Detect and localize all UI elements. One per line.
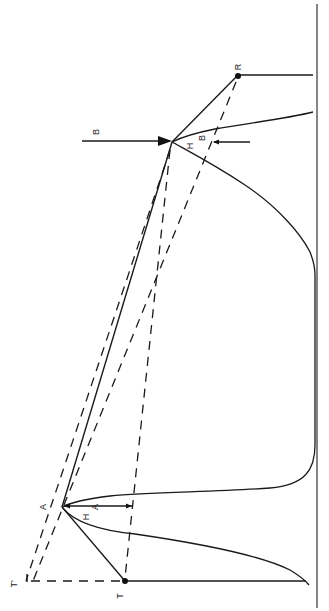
tangent-r-b: [172, 75, 238, 142]
label-peak-b-arrow: B: [91, 129, 101, 135]
peak-b-arrowhead-icon: [158, 136, 172, 146]
point-r-dot: [235, 73, 241, 79]
label-point-r: R: [233, 63, 243, 70]
label-height-b-h: H: [185, 143, 195, 150]
label-height-a-h: H: [81, 514, 91, 521]
label-point-t-prime: T': [9, 580, 19, 587]
height-a-arrowhead-right-icon: [126, 504, 132, 509]
chromatogram-diagram: A B R T T' H A H B: [0, 0, 329, 611]
height-b-arrowhead-icon: [213, 140, 219, 145]
chromatogram-curve-peak-a-tail: [62, 507, 309, 585]
label-peak-a: A: [38, 504, 48, 510]
label-height-a-sub: A: [90, 504, 100, 510]
dashed-b-to-t-prime: [26, 150, 170, 581]
chromatogram-curve-peak-b-tail: [62, 142, 315, 507]
tangent-a-t: [62, 507, 125, 581]
label-point-t: T: [115, 593, 125, 599]
label-height-b-sub: B: [197, 135, 207, 141]
dashed-b-to-t: [125, 150, 170, 578]
point-t-dot: [122, 578, 128, 584]
tangent-b-a: [62, 142, 172, 507]
chromatogram-curve-upper: [172, 112, 313, 142]
